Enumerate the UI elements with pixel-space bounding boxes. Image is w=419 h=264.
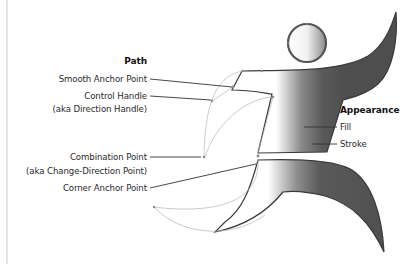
leg-shape <box>215 160 384 252</box>
smooth-anchor-label: Smooth Anchor Point <box>59 74 147 84</box>
running-figure-illustration <box>0 0 419 264</box>
path-heading: Path <box>124 56 147 66</box>
appearance-heading: Appearance <box>340 105 399 115</box>
stroke-label: Stroke <box>340 139 367 149</box>
control-handle-aka-label: (aka Direction Handle) <box>53 104 147 114</box>
combination-point-label: Combination Point <box>70 152 147 162</box>
combination-point-aka-label: (aka Change-Direction Point) <box>26 166 147 176</box>
head-shape <box>287 23 326 62</box>
control-handle-label: Control Handle <box>84 91 147 101</box>
fill-label: Fill <box>340 122 351 132</box>
corner-anchor-label: Corner Anchor Point <box>63 183 147 193</box>
